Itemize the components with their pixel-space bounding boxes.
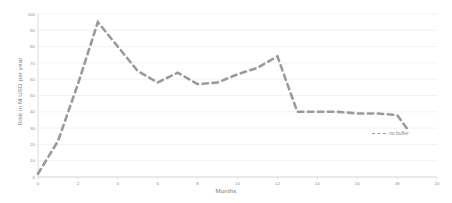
- x-tick-label: 6: [150, 181, 166, 186]
- data-series-no-buffer: [38, 22, 409, 174]
- chart-container: 0102030405060708090100 02468101214161820…: [0, 0, 452, 203]
- series-line: [38, 22, 409, 174]
- y-tick-label: 10: [19, 158, 35, 163]
- legend-label-no-buffer: no buffer: [389, 130, 409, 136]
- x-tick-label: 8: [190, 181, 206, 186]
- x-tick-label: 20: [429, 181, 445, 186]
- x-tick-label: 0: [30, 181, 46, 186]
- y-tick-label: 100: [19, 12, 35, 17]
- x-tick-label: 14: [309, 181, 325, 186]
- x-tick-label: 16: [349, 181, 365, 186]
- chart-legend: no buffer: [372, 130, 409, 136]
- plot-area: [0, 0, 452, 203]
- x-tick-label: 2: [70, 181, 86, 186]
- x-axis-title: Months: [0, 187, 452, 194]
- axis-lines: [38, 14, 437, 180]
- x-tick-label: 4: [110, 181, 126, 186]
- x-tick-label: 18: [389, 181, 405, 186]
- x-tick-label: 12: [269, 181, 285, 186]
- gridlines: [38, 14, 437, 177]
- legend-line-swatch: [372, 133, 386, 134]
- y-axis-title: Risk in M USD per year: [16, 37, 23, 147]
- y-tick-label: 0: [19, 175, 35, 180]
- x-tick-label: 10: [230, 181, 246, 186]
- y-tick-label: 90: [19, 28, 35, 33]
